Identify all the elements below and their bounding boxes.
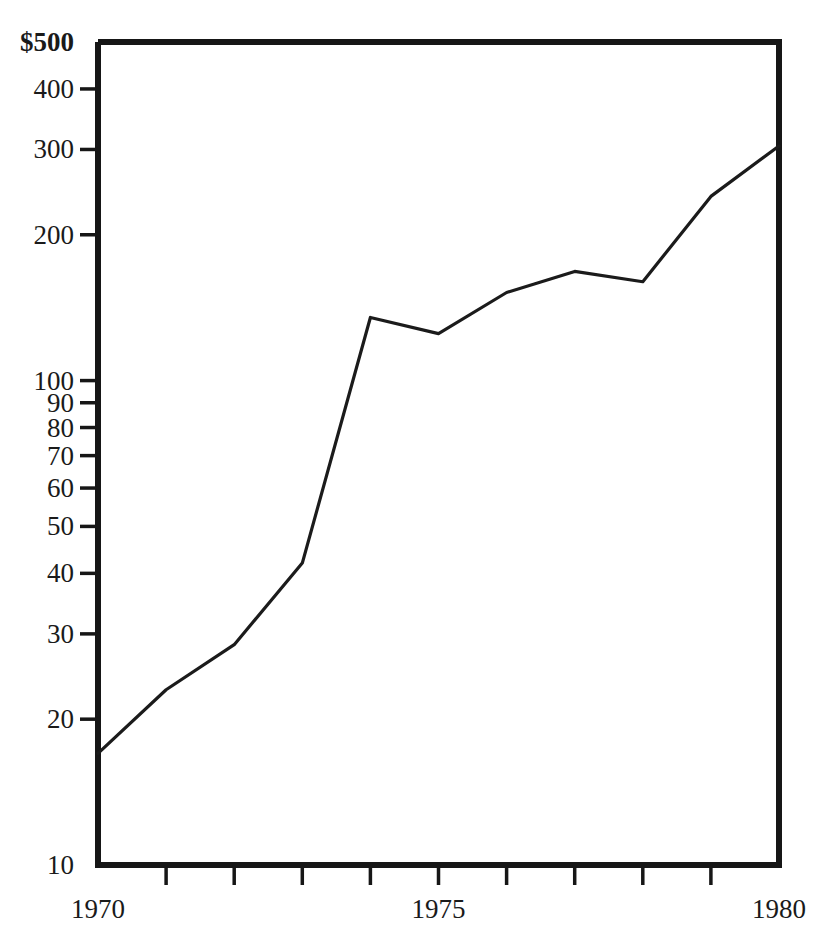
y-tick-label: 400 [34,74,75,104]
y-tick-label: 70 [47,441,74,471]
y-tick-label: 50 [47,511,74,541]
chart-page: $500400300200100908070605040302010 19701… [0,0,828,945]
data-line-series-1 [98,146,779,753]
y-axis-labels: $500400300200100908070605040302010 [20,27,74,880]
plot-frame-path [98,42,779,865]
x-tick-label: 1970 [71,894,125,924]
plot-frame [98,42,779,865]
x-tick-label: 1975 [412,894,466,924]
y-tick-label: 20 [47,704,74,734]
y-tick-label: 40 [47,558,74,588]
y-tick-label: 60 [47,473,74,503]
data-series-group [98,146,779,753]
y-tick-label: 200 [34,220,75,250]
line-chart: $500400300200100908070605040302010 19701… [0,0,828,945]
y-tick-label: 30 [47,619,74,649]
x-axis-labels: 197019751980 [71,894,806,924]
y-tick-label: $500 [20,27,74,57]
y-tick-label: 300 [34,134,75,164]
y-tick-label: 10 [47,850,74,880]
y-tick-label: 80 [47,413,74,443]
x-tick-label: 1980 [752,894,806,924]
